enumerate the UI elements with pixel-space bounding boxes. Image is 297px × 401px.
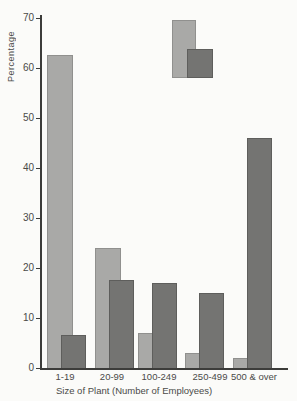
y-tick-label: 0 <box>4 363 34 373</box>
y-tick-label: 70 <box>4 13 34 23</box>
y-tick-label: 30 <box>4 213 34 223</box>
y-tick-label: 50 <box>4 113 34 123</box>
x-axis-line <box>40 368 288 370</box>
y-tick-mark <box>36 218 40 219</box>
bar-employment-20-99 <box>109 280 134 368</box>
bar-plants-1-19 <box>47 55 73 368</box>
x-tick-label: 500 & over <box>231 372 277 382</box>
x-tick-label: 250-499 <box>193 372 228 382</box>
y-tick-mark <box>36 18 40 19</box>
y-tick-label: 20 <box>4 263 34 273</box>
x-tick-label: 1-19 <box>55 372 74 382</box>
y-tick-label: 60 <box>4 63 34 73</box>
y-tick-mark <box>36 68 40 69</box>
x-tick-label: 20-99 <box>100 372 124 382</box>
bar-employment-1-19 <box>61 335 86 368</box>
y-tick-mark <box>36 268 40 269</box>
bar-employment-250-499 <box>199 293 224 368</box>
y-axis-line <box>40 15 42 368</box>
bar-employment-500-over <box>247 138 272 368</box>
bar-chart: Percentage Plants Employment Size of Pla… <box>0 0 297 401</box>
y-tick-mark <box>36 168 40 169</box>
y-tick-label: 40 <box>4 163 34 173</box>
y-tick-label: 10 <box>4 313 34 323</box>
x-tick-label: 100-249 <box>142 372 177 382</box>
y-tick-mark <box>36 118 40 119</box>
x-axis-title: Size of Plant (Number of Employees) <box>56 385 212 396</box>
y-tick-mark <box>36 368 40 369</box>
bar-employment-100-249 <box>152 283 177 368</box>
y-tick-mark <box>36 318 40 319</box>
legend-swatch-employment <box>187 49 213 78</box>
